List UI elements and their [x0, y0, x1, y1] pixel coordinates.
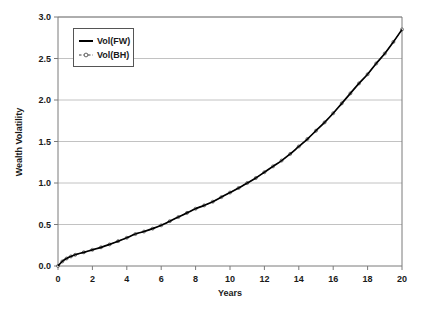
- y-tick-label-1: 0.5: [38, 220, 51, 230]
- x-tick-label-5: 10: [225, 274, 235, 284]
- y-tick-label-6: 3.0: [38, 12, 51, 22]
- x-tick-label-3: 6: [159, 274, 164, 284]
- x-tick-label-9: 18: [363, 274, 373, 284]
- x-tick-label-2: 4: [124, 274, 129, 284]
- x-tick-label-0: 0: [55, 274, 60, 284]
- y-tick-label-2: 1.0: [38, 178, 51, 188]
- chart-canvas: 02468101214161820 0.00.51.01.52.02.53.0 …: [0, 0, 427, 316]
- x-tick-label-1: 2: [90, 274, 95, 284]
- x-tick-label-10: 20: [397, 274, 407, 284]
- legend-swatch-marker-icon: [84, 53, 88, 57]
- x-tick-label-7: 14: [294, 274, 304, 284]
- legend-label-vol-bh: Vol(BH): [97, 50, 129, 60]
- y-axis-title: Wealth Volatility: [14, 108, 24, 177]
- chart-background: [0, 0, 427, 316]
- y-tick-label-5: 2.5: [38, 54, 51, 64]
- legend-box-border: [74, 29, 134, 67]
- x-axis-title: Years: [218, 288, 242, 298]
- legend-label-vol-fw: Vol(FW): [97, 36, 130, 46]
- chart-figure: 02468101214161820 0.00.51.01.52.02.53.0 …: [0, 0, 427, 316]
- y-tick-label-4: 2.0: [38, 95, 51, 105]
- x-tick-label-4: 8: [193, 274, 198, 284]
- y-tick-label-0: 0.0: [38, 261, 51, 271]
- x-tick-label-6: 12: [259, 274, 269, 284]
- y-tick-label-3: 1.5: [38, 137, 51, 147]
- x-tick-label-8: 16: [328, 274, 338, 284]
- chart-legend[interactable]: Vol(FW) Vol(BH): [74, 29, 134, 67]
